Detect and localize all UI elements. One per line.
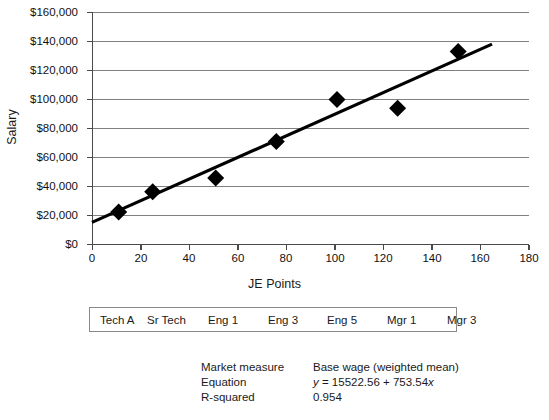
data-point-eng-1	[207, 169, 224, 186]
legend-entry-mgr-3: Mgr 3	[447, 312, 476, 328]
legend-entry-sr-tech: Sr Tech	[147, 312, 186, 328]
table-row: Market measure Base wage (weighted mean)	[201, 360, 459, 375]
stat-value-equation: y = 15522.56 + 753.54x	[313, 375, 459, 390]
legend-entry-eng-1: Eng 1	[208, 312, 238, 328]
equation-x-var: x	[428, 376, 434, 388]
data-point-tech-a	[110, 204, 127, 221]
stat-label-r-squared: R-squared	[201, 390, 313, 405]
data-markers	[110, 43, 467, 221]
table-row: R-squared 0.954	[201, 390, 459, 405]
table-row: Equation y = 15522.56 + 753.54x	[201, 375, 459, 390]
data-point-eng-5	[329, 91, 346, 108]
stat-label-market-measure: Market measure	[201, 360, 313, 375]
legend-entry-eng-5: Eng 5	[327, 312, 357, 328]
data-point-mgr-1	[389, 100, 406, 117]
legend: Tech A Sr Tech Eng 1 Eng 3 Eng 5 Mgr 1 M…	[89, 307, 457, 332]
legend-entry-eng-3: Eng 3	[268, 312, 298, 328]
stat-value-r-squared: 0.954	[313, 390, 459, 405]
plot-svg	[0, 0, 549, 300]
y-axis-ticks	[87, 13, 92, 245]
stat-label-equation: Equation	[201, 375, 313, 390]
stat-value-market-measure: Base wage (weighted mean)	[313, 360, 459, 375]
legend-entry-mgr-1: Mgr 1	[387, 312, 416, 328]
equation-body: = 15522.56 + 753.54	[319, 376, 428, 388]
regression-stats-table: Market measure Base wage (weighted mean)…	[201, 360, 459, 405]
regression-stats-block: Market measure Base wage (weighted mean)…	[201, 360, 459, 405]
legend-entry-tech-a: Tech A	[100, 312, 135, 328]
gridlines	[92, 13, 529, 216]
salary-vs-je-points-scatter-chart: Salary $160,000 $140,000 $120,000 $100,0…	[0, 0, 549, 300]
x-axis-ticks	[93, 245, 530, 250]
data-point-eng-3	[268, 133, 285, 150]
